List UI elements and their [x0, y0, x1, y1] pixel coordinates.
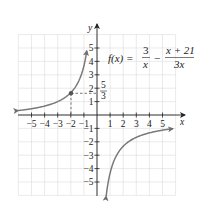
- svg-text:−4: −4: [40, 119, 50, 129]
- highlighted-point: [69, 91, 73, 95]
- svg-text:−1: −1: [83, 124, 93, 134]
- svg-text:5: 5: [160, 119, 165, 129]
- svg-text:x + 21: x + 21: [165, 44, 195, 56]
- svg-text:−3: −3: [53, 119, 63, 129]
- svg-text:4: 4: [147, 119, 152, 129]
- point-y-label-fraction: 5 3: [100, 80, 107, 101]
- svg-text:−: −: [154, 52, 160, 64]
- svg-text:3: 3: [134, 119, 139, 129]
- svg-text:f(x) =: f(x) =: [108, 52, 133, 65]
- svg-text:−5: −5: [26, 119, 36, 129]
- svg-text:3x: 3x: [173, 58, 185, 70]
- svg-text:−3: −3: [83, 151, 93, 161]
- svg-text:3: 3: [89, 70, 94, 80]
- svg-text:3: 3: [143, 44, 149, 56]
- y-axis-label: y: [87, 23, 93, 33]
- svg-text:−2: −2: [83, 137, 93, 147]
- svg-text:x: x: [142, 58, 148, 70]
- svg-text:5: 5: [101, 80, 106, 90]
- svg-text:1: 1: [89, 97, 94, 107]
- x-axis-label: x: [179, 117, 185, 127]
- function-graph: x y −5−4−3−2−112345 54321−1−2−3−4−5 5 3 …: [0, 0, 204, 205]
- svg-text:3: 3: [101, 91, 106, 101]
- svg-text:−4: −4: [83, 164, 93, 174]
- svg-text:2: 2: [89, 84, 94, 94]
- svg-text:1: 1: [108, 119, 113, 129]
- svg-text:5: 5: [89, 43, 94, 53]
- svg-text:2: 2: [121, 119, 126, 129]
- svg-text:−5: −5: [83, 177, 93, 187]
- svg-text:−2: −2: [66, 119, 76, 129]
- right-branch-curve: [106, 129, 173, 196]
- svg-text:4: 4: [89, 57, 94, 67]
